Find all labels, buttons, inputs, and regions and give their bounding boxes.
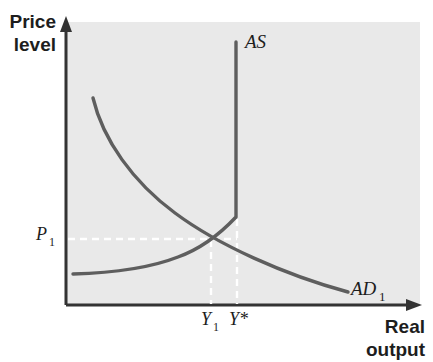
plot-area-background bbox=[66, 22, 420, 305]
tick-label-y1: Y bbox=[201, 309, 213, 329]
y-axis-title-line2: level bbox=[14, 34, 56, 55]
ad1-curve-label: AD bbox=[349, 278, 377, 299]
ad-as-diagram: Price level Real output AS AD 1 P 1 Y 1 … bbox=[0, 0, 433, 362]
ad1-curve-label-subscript: 1 bbox=[379, 289, 386, 304]
as-curve-label: AS bbox=[243, 31, 267, 52]
tick-label-ystar: Y* bbox=[229, 309, 248, 329]
x-axis-title-line2: output bbox=[366, 339, 426, 360]
tick-label-p1-subscript: 1 bbox=[49, 235, 55, 249]
tick-label-p1: P bbox=[35, 224, 47, 244]
tick-label-y1-subscript: 1 bbox=[213, 320, 219, 334]
y-axis-title-line1: Price bbox=[10, 11, 56, 32]
x-axis-title-line1: Real bbox=[385, 316, 425, 337]
